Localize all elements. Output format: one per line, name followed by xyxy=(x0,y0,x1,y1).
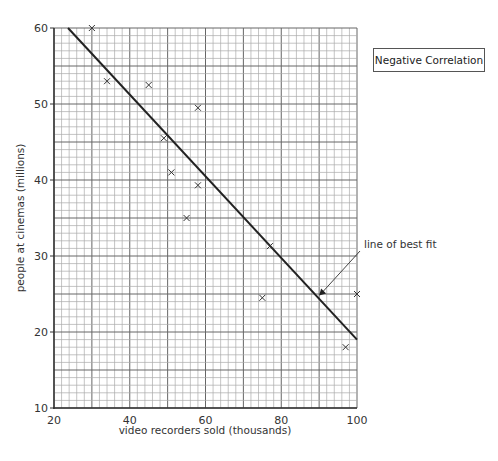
svg-text:20: 20 xyxy=(34,326,48,339)
line-of-best-fit xyxy=(68,28,357,340)
data-point-marker xyxy=(146,82,152,88)
svg-text:60: 60 xyxy=(34,22,48,35)
svg-text:40: 40 xyxy=(34,174,48,187)
legend-box: Negative Correlation xyxy=(373,48,485,72)
svg-text:20: 20 xyxy=(47,414,61,427)
chart-grid xyxy=(54,28,357,408)
svg-text:30: 30 xyxy=(34,250,48,263)
y-axis-label: people at cinemas (millions) xyxy=(14,144,26,293)
annotation-label: line of best fit xyxy=(364,238,437,250)
data-point-marker xyxy=(259,295,265,301)
svg-text:10: 10 xyxy=(34,402,48,415)
legend-label: Negative Correlation xyxy=(375,54,483,66)
svg-text:50: 50 xyxy=(34,98,48,111)
x-axis-label: video recorders sold (thousands) xyxy=(119,424,292,436)
svg-text:100: 100 xyxy=(347,414,368,427)
data-point-marker xyxy=(161,135,167,141)
